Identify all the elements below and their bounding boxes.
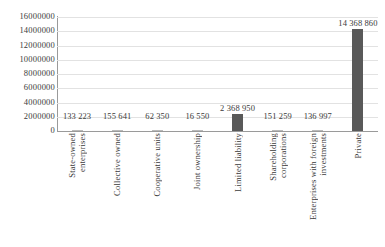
- x-axis-category-label: State-ownedenterprises: [67, 133, 87, 178]
- bar-value-label: 14 368 860: [338, 19, 377, 28]
- category-label-line: corporations: [278, 133, 288, 178]
- bar-value-label: 2 368 950: [220, 104, 255, 113]
- x-axis-category-label: Collective owned: [112, 133, 122, 196]
- category-label-line: Private: [353, 133, 363, 158]
- x-axis-category-label: Joint ownership: [192, 133, 202, 190]
- x-axis-category-label: Enterprises with foreigninvestments: [308, 133, 328, 220]
- category-label-line: Enterprises with foreign: [308, 133, 318, 220]
- bar-value-label: 62 350: [145, 112, 169, 121]
- category-label-line: Joint ownership: [192, 133, 202, 190]
- category-label-line: Collective owned: [112, 133, 122, 196]
- bar-value-label: 155 641: [103, 112, 131, 121]
- bar-value-label: 136 997: [304, 112, 332, 121]
- x-axis-category-label: Limited liability: [233, 133, 243, 192]
- x-axis-category-label: Shareholdingcorporations: [268, 133, 288, 181]
- x-axis-category-label: Private: [353, 133, 363, 158]
- category-label-line: Cooperative units: [152, 133, 162, 197]
- x-axis-category-label: Cooperative units: [152, 133, 162, 197]
- bar-value-label: 133 223: [63, 112, 91, 121]
- x-axis-category-labels: State-ownedenterprisesCollective ownedCo…: [57, 133, 378, 247]
- category-label-line: investments: [318, 133, 328, 176]
- category-label-line: enterprises: [77, 133, 87, 172]
- chart-page: 1600000014000000120000001000000080000006…: [0, 0, 385, 247]
- category-label-line: Limited liability: [233, 133, 243, 192]
- bar-value-label: 151 259: [264, 112, 292, 121]
- category-label-line: Shareholding: [268, 133, 278, 181]
- category-label-line: State-owned: [67, 133, 77, 178]
- bar-value-label: 16 550: [185, 112, 209, 121]
